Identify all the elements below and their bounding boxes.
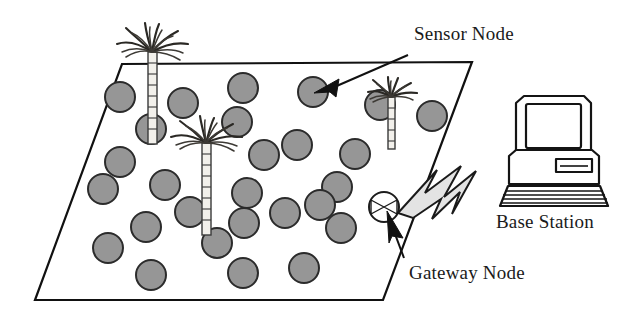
sensor-node bbox=[93, 233, 123, 263]
sensor-node bbox=[168, 88, 198, 118]
sensor-network-figure: Sensor Node Gateway Node Base Station bbox=[0, 0, 626, 322]
sensor-node bbox=[289, 253, 319, 283]
sensor-node bbox=[417, 101, 447, 131]
sensor-node bbox=[136, 260, 166, 290]
sensor-node-label: Sensor Node bbox=[414, 23, 514, 44]
sensor-node bbox=[222, 107, 252, 137]
sensor-node bbox=[150, 170, 180, 200]
sensor-node bbox=[305, 190, 335, 220]
desktop-computer-icon bbox=[500, 96, 608, 206]
base-station-label: Base Station bbox=[496, 211, 594, 232]
gateway-node-label: Gateway Node bbox=[409, 262, 525, 283]
sensor-node bbox=[175, 197, 205, 227]
sensor-node bbox=[282, 130, 312, 160]
sensor-node bbox=[232, 178, 262, 208]
sensor-node bbox=[249, 140, 279, 170]
sensor-node bbox=[105, 82, 135, 112]
sensor-node bbox=[131, 212, 161, 242]
sensor-node bbox=[340, 139, 370, 169]
sensor-node bbox=[228, 258, 258, 288]
sensor-node bbox=[88, 174, 118, 204]
sensor-node bbox=[105, 147, 135, 177]
sensor-node bbox=[326, 213, 356, 243]
sensor-node bbox=[228, 73, 258, 103]
gateway-node bbox=[369, 192, 399, 222]
figure-canvas: Sensor Node Gateway Node Base Station bbox=[0, 0, 626, 322]
sensor-node bbox=[270, 198, 300, 228]
sensor-node bbox=[229, 208, 259, 238]
